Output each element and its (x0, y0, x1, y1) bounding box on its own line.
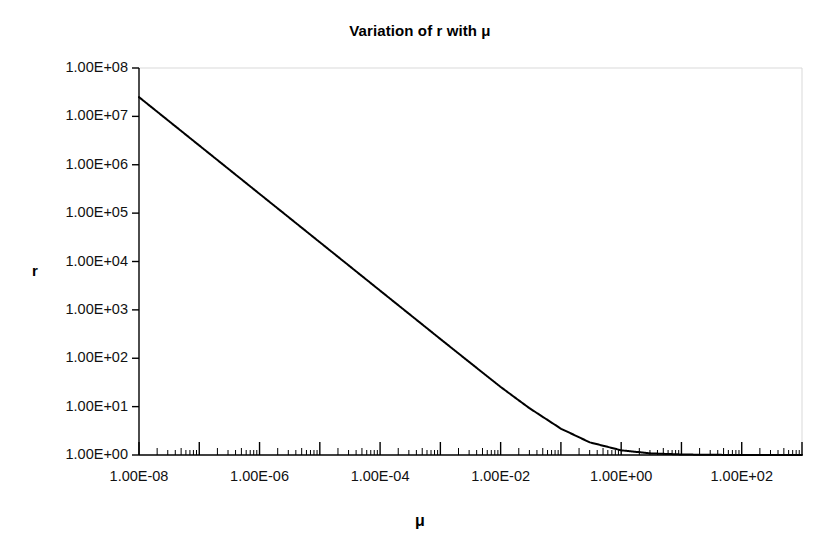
plot-frame (139, 68, 802, 455)
y-tick-label: 1.00E+08 (32, 59, 128, 75)
y-tick-label: 1.00E+00 (32, 446, 128, 462)
y-tick-label: 1.00E+06 (32, 156, 128, 172)
x-tick-label: 1.00E-06 (200, 468, 320, 484)
chart-figure: Variation of r with μ r μ 1.00E+081.00E+… (0, 0, 840, 557)
y-tick-label: 1.00E+07 (32, 107, 128, 123)
y-axis-ticks (132, 68, 139, 455)
x-tick-label: 1.00E-08 (79, 468, 199, 484)
x-tick-label: 1.00E-04 (320, 468, 440, 484)
x-axis-ticks (139, 442, 802, 455)
y-tick-label: 1.00E+02 (32, 349, 128, 365)
x-tick-label: 1.00E+00 (561, 468, 681, 484)
y-tick-label: 1.00E+05 (32, 204, 128, 220)
y-tick-label: 1.00E+04 (32, 253, 128, 269)
y-tick-label: 1.00E+03 (32, 301, 128, 317)
x-tick-label: 1.00E+02 (682, 468, 802, 484)
y-tick-label: 1.00E+01 (32, 398, 128, 414)
x-tick-label: 1.00E-02 (441, 468, 561, 484)
data-series-group (139, 97, 802, 455)
